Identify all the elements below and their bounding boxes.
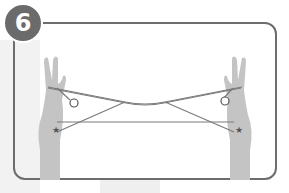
left-hand [38, 56, 66, 180]
step-number: 6 [15, 11, 32, 35]
right-hand [224, 56, 252, 180]
circle-marker-right [221, 97, 229, 105]
star-marker-left: ★ [52, 125, 60, 135]
step-number-badge: 6 [3, 3, 43, 43]
string-figure-illustration: ★ ★ [0, 0, 289, 193]
string [48, 87, 242, 132]
circle-marker-left [70, 99, 78, 107]
star-marker-right: ★ [235, 125, 243, 135]
